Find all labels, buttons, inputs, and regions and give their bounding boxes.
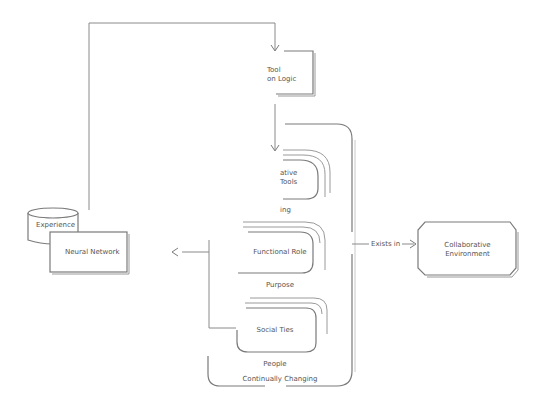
arrow-left-neural-icon <box>172 248 178 256</box>
creative-tools-caption: ing <box>280 205 291 215</box>
tool-label-line2: on Logic <box>267 74 296 84</box>
creative-tools-label-line2: Tools <box>280 177 297 187</box>
social-ties-label: Social Ties <box>245 325 305 335</box>
exists-in-label: Exists in <box>371 239 400 249</box>
social-ties-caption: People <box>245 359 305 369</box>
experience-label: Experience <box>36 220 75 230</box>
functional-role-caption: Purpose <box>250 280 310 290</box>
environment-label-line2: Environment <box>425 249 510 259</box>
container-caption: Continually Changing <box>235 374 325 384</box>
neural-network-label: Neural Network <box>65 247 120 257</box>
to-neural-connector <box>182 240 236 328</box>
diagram-canvas <box>0 0 542 406</box>
functional-role-label: Functional Role <box>250 247 310 257</box>
feedback-connector <box>89 23 275 210</box>
